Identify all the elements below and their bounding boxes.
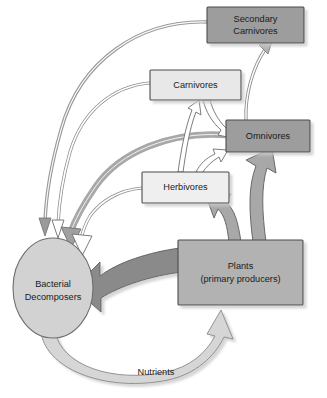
node-plants[interactable]: Plants (primary producers): [178, 240, 303, 305]
edge-secondary-carnivores-to-decomposers: [39, 22, 207, 236]
food-web-canvas: Secondary Carnivores Carnivores Omnivore…: [0, 0, 327, 398]
food-web-diagram: Secondary Carnivores Carnivores Omnivore…: [0, 0, 327, 398]
node-secondary-carnivores[interactable]: Secondary Carnivores: [207, 7, 304, 43]
edge-herbivores-to-omnivores: [196, 149, 228, 173]
omnivores-to-secondary-band: [246, 48, 266, 120]
secondary-carnivores-label-line1: Secondary: [234, 14, 278, 24]
secondary-carnivores-box[interactable]: [207, 7, 304, 43]
bacterial-decomposers-label-line1: Bacterial: [35, 279, 71, 289]
nutrients-label: Nutrients: [138, 367, 175, 377]
node-herbivores[interactable]: Herbivores: [142, 172, 229, 203]
plants-label-line1: Plants: [228, 261, 254, 271]
secondary-carnivores-arrowhead: [39, 218, 51, 236]
secondary-carnivores-label-line2: Carnivores: [233, 26, 278, 36]
herbivores-to-omnivores-arrow: [196, 149, 228, 173]
edge-herbivores-to-decomposers: [72, 188, 142, 256]
node-omnivores[interactable]: Omnivores: [226, 120, 310, 152]
edge-label-layer: Nutrients: [138, 367, 175, 377]
edge-omnivores-to-secondary-carnivores: [246, 41, 272, 120]
carnivores-label: Carnivores: [173, 80, 218, 90]
edge-carnivores-to-decomposers: [52, 83, 150, 238]
herbivores-label: Herbivores: [163, 182, 208, 192]
plants-box[interactable]: [178, 240, 303, 305]
edge-plants-to-omnivores: [246, 148, 276, 242]
bacterial-decomposers-label-line2: Decomposers: [25, 292, 82, 302]
node-carnivores[interactable]: Carnivores: [150, 70, 241, 100]
node-bacterial-decomposers[interactable]: Bacterial Decomposers: [13, 238, 93, 338]
plants-label-line2: (primary producers): [200, 274, 280, 284]
omnivores-label: Omnivores: [246, 131, 291, 141]
plants-to-omnivores-arrow: [246, 148, 276, 242]
